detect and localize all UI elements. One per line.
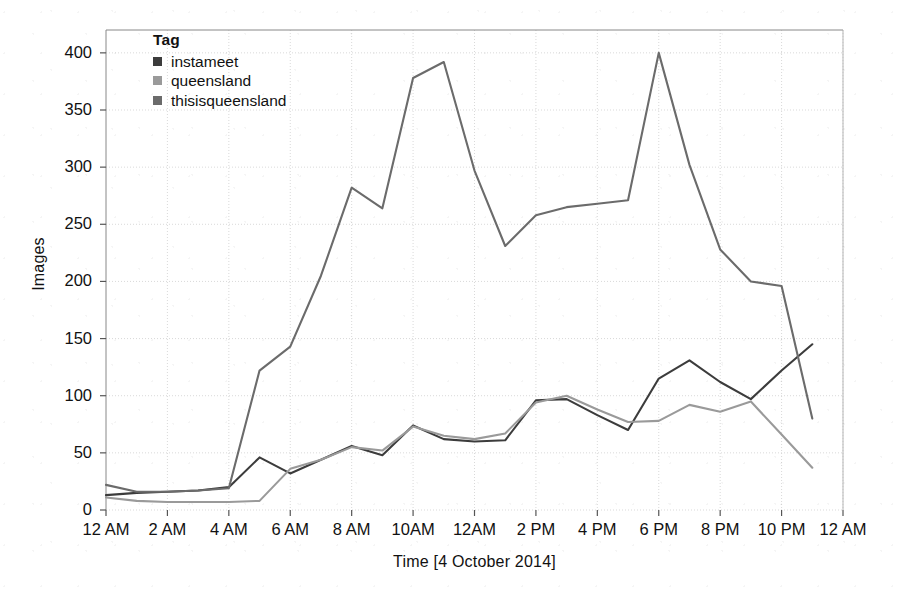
x-tick-label: 6 PM <box>639 520 678 539</box>
y-tick-label: 400 <box>36 43 92 62</box>
legend-swatch-icon <box>153 57 162 66</box>
y-tick-label: 300 <box>36 157 92 176</box>
x-tick-label: 4 PM <box>578 520 617 539</box>
legend-label: instameet <box>171 52 238 72</box>
legend-entry-queensland[interactable]: queensland <box>153 71 286 91</box>
y-tick-label: 50 <box>36 443 92 462</box>
axis-ticks <box>100 53 843 516</box>
x-tick-label: 12 AM <box>83 520 130 539</box>
legend-swatch-icon <box>153 96 162 105</box>
legend: Tag instameetqueenslandthisisqueensland <box>153 30 286 110</box>
legend-label: queensland <box>171 71 251 91</box>
x-tick-label: 10AM <box>392 520 435 539</box>
y-axis-title: Images <box>30 204 48 324</box>
line-chart: 050100150200250300350400 12 AM2 AM4 AM6 … <box>0 0 902 589</box>
x-tick-label: 2 PM <box>517 520 556 539</box>
legend-title: Tag <box>153 30 286 50</box>
plot-canvas <box>0 0 902 589</box>
x-axis-title: Time [4 October 2014] <box>106 553 843 571</box>
legend-entry-thisisqueensland[interactable]: thisisqueensland <box>153 91 286 111</box>
legend-entry-instameet[interactable]: instameet <box>153 52 286 72</box>
legend-label: thisisqueensland <box>171 91 286 111</box>
x-tick-label: 12AM <box>453 520 496 539</box>
x-tick-label: 10 PM <box>758 520 806 539</box>
y-tick-label: 350 <box>36 100 92 119</box>
x-tick-label: 8 AM <box>333 520 371 539</box>
x-tick-label: 2 AM <box>149 520 187 539</box>
y-tick-label: 100 <box>36 386 92 405</box>
y-tick-label: 0 <box>36 500 92 519</box>
x-tick-label: 8 PM <box>701 520 740 539</box>
x-tick-label: 4 AM <box>210 520 248 539</box>
x-tick-label: 6 AM <box>271 520 309 539</box>
x-tick-label: 12 AM <box>820 520 867 539</box>
data-series-layer <box>106 53 812 502</box>
legend-swatch-icon <box>153 76 162 85</box>
legend-entries: instameetqueenslandthisisqueensland <box>153 52 286 111</box>
y-tick-label: 150 <box>36 329 92 348</box>
